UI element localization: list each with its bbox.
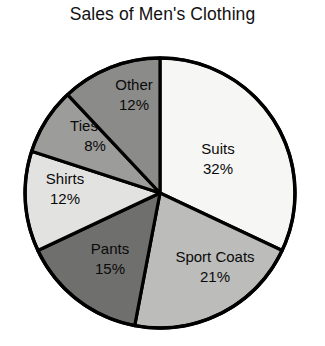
slice-label-sport-coats: Sport Coats bbox=[175, 248, 254, 265]
slice-value-shirts: 12% bbox=[50, 190, 80, 207]
slice-value-pants: 15% bbox=[95, 260, 125, 277]
slice-value-other: 12% bbox=[119, 96, 149, 113]
slice-value-sport-coats: 21% bbox=[200, 268, 230, 285]
slice-label-pants: Pants bbox=[91, 240, 129, 257]
pie-chart-figure: Sales of Men's Clothing Suits32%Sport Co… bbox=[0, 0, 325, 346]
slice-value-ties: 8% bbox=[84, 137, 106, 154]
slice-label-suits: Suits bbox=[201, 140, 234, 157]
slice-label-ties: Ties bbox=[70, 117, 98, 134]
slice-label-other: Other bbox=[115, 76, 153, 93]
slice-label-shirts: Shirts bbox=[46, 170, 84, 187]
pie-chart-graphic: Suits32%Sport Coats21%Pants15%Shirts12%T… bbox=[0, 0, 325, 346]
slice-value-suits: 32% bbox=[203, 160, 233, 177]
